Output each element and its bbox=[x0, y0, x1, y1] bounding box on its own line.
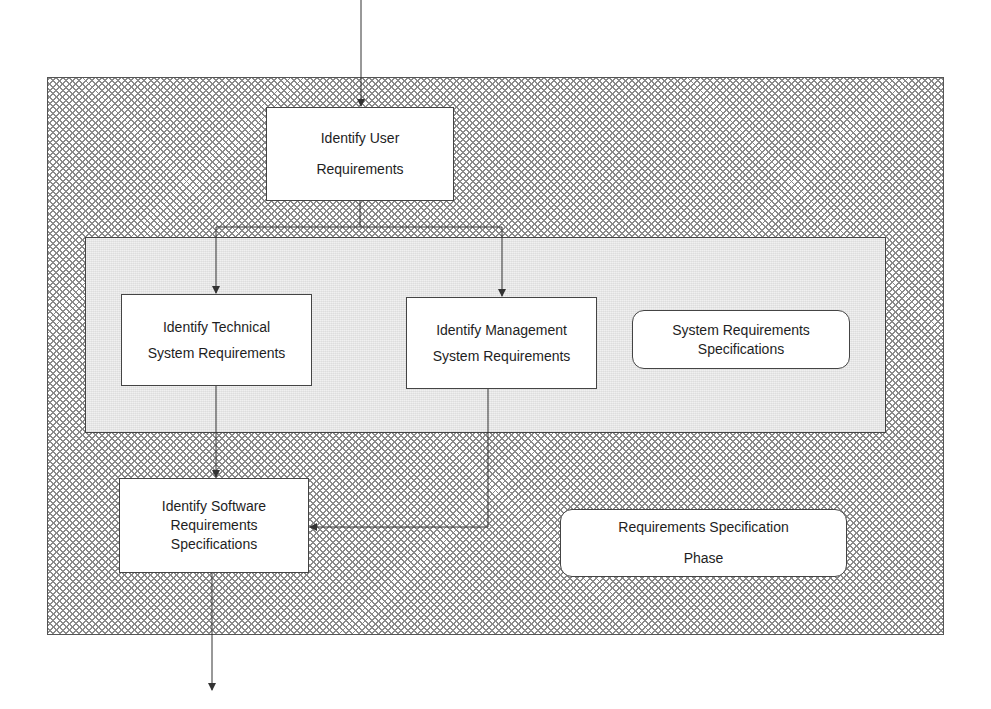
identify-management-system-requirements-node[interactable]: Identify Management System Requirements bbox=[406, 297, 597, 389]
label-line: Phase bbox=[684, 550, 724, 567]
node-label-line: Identify User bbox=[321, 130, 400, 147]
node-label-line: System Requirements bbox=[433, 348, 571, 365]
system-requirements-specifications-label: System Requirements Specifications bbox=[632, 310, 850, 369]
node-label-line: System Requirements bbox=[148, 345, 286, 362]
node-label-line: Specifications bbox=[171, 536, 257, 553]
label-line: Specifications bbox=[698, 341, 784, 358]
node-label-line: Identify Management bbox=[436, 322, 567, 339]
node-label-line: Requirements bbox=[170, 517, 257, 534]
requirements-specification-phase-label: Requirements Specification Phase bbox=[560, 509, 847, 577]
identify-software-requirements-specifications-node[interactable]: Identify Software Requirements Specifica… bbox=[119, 478, 309, 573]
label-line: Requirements Specification bbox=[618, 519, 788, 536]
label-line: System Requirements bbox=[672, 322, 810, 339]
node-label-line: Identify Software bbox=[162, 498, 266, 515]
identify-technical-system-requirements-node[interactable]: Identify Technical System Requirements bbox=[121, 294, 312, 386]
node-label-line: Identify Technical bbox=[163, 319, 270, 336]
node-label-line: Requirements bbox=[316, 161, 403, 178]
identify-user-requirements-node[interactable]: Identify User Requirements bbox=[266, 107, 454, 201]
